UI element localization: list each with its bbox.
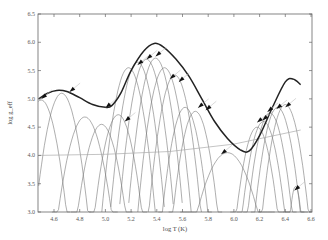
y-tick-label: 3.0 <box>28 209 36 215</box>
arch-curve <box>90 115 148 212</box>
y-tick-label: 5.0 <box>28 96 36 102</box>
x-tick-label: 6.0 <box>230 216 238 222</box>
arch-curve <box>102 68 156 212</box>
arrow-marker <box>284 97 297 109</box>
x-tick-label: 5.2 <box>127 216 135 222</box>
chart: 4.64.85.05.25.45.65.86.06.26.46.6 3.03.5… <box>0 0 328 240</box>
arch-curve <box>180 153 275 212</box>
y-tick-label: 6.0 <box>28 39 36 45</box>
arch-curve <box>158 107 212 212</box>
reference-curve <box>39 130 301 155</box>
arch-curve <box>251 107 304 212</box>
arrow-marker <box>136 54 149 66</box>
arch-curve <box>52 117 118 212</box>
x-tick-label: 6.2 <box>256 216 264 222</box>
x-tick-label: 5.6 <box>179 216 187 222</box>
y-tick-label: 4.0 <box>28 152 36 158</box>
y-tick-label: 4.5 <box>28 124 36 130</box>
arrow-marker <box>68 82 81 94</box>
x-tick-label: 5.4 <box>153 216 161 222</box>
arrow-marker <box>177 71 190 83</box>
arch-curves <box>38 58 310 212</box>
x-tick-label: 4.8 <box>76 216 84 222</box>
x-tick-label: 5.0 <box>102 216 110 222</box>
arch-curve <box>148 75 201 212</box>
y-tick-label: 3.5 <box>28 181 36 187</box>
arch-curve <box>243 113 296 212</box>
arrow-marker <box>154 46 167 58</box>
y-axis-label: log g_eff <box>6 100 13 124</box>
x-tick-label: 5.8 <box>204 216 212 222</box>
reference-line <box>39 130 301 155</box>
x-tick-label: 6.4 <box>282 216 290 222</box>
y-tick-label: 5.5 <box>28 68 36 74</box>
x-tick-label: 4.6 <box>50 216 58 222</box>
x-tick-label: 6.6 <box>307 216 315 222</box>
y-tick-label: 6.5 <box>28 11 36 17</box>
arch-curve <box>283 187 308 213</box>
x-axis-label: log T (K) <box>163 225 187 233</box>
arrow-marker <box>40 88 53 100</box>
arrow-marker <box>293 180 306 192</box>
